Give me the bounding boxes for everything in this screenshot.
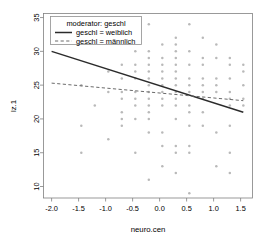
scatter-point [161, 57, 164, 60]
scatter-point [229, 124, 232, 127]
scatter-point [188, 145, 191, 148]
scatter-point [188, 104, 191, 107]
plot-canvas: -2.0-1.5-1.0-0.50.00.51.01.5 10152025303… [0, 0, 266, 246]
x-tick-label: 0.5 [181, 204, 191, 213]
moderation-scatter-figure: -2.0-1.5-1.0-0.50.00.51.01.5 10152025303… [0, 0, 266, 246]
x-tick-label: -1.0 [99, 204, 112, 213]
scatter-point [202, 37, 205, 40]
scatter-point [202, 64, 205, 67]
scatter-point [121, 111, 124, 114]
scatter-point [202, 124, 205, 127]
scatter-point [148, 64, 151, 67]
scatter-point [161, 77, 164, 80]
scatter-point [188, 111, 191, 114]
scatter-point [148, 179, 151, 182]
scatter-point [188, 64, 191, 67]
y-tick-label: 30 [32, 47, 41, 55]
x-tick-label: -2.0 [45, 204, 58, 213]
scatter-point [161, 145, 164, 148]
x-axis-title: neuro.cen [131, 225, 166, 234]
scatter-point [121, 91, 124, 94]
scatter-point [134, 151, 137, 154]
y-tick-label: 10 [32, 182, 41, 190]
scatter-point [175, 172, 178, 175]
scatter-point [80, 151, 83, 154]
y-tick-label: 15 [32, 149, 41, 157]
x-tick-label: -0.5 [126, 204, 139, 213]
scatter-point [148, 23, 151, 26]
x-tick-label: 1.0 [208, 204, 218, 213]
scatter-point [215, 57, 218, 60]
scatter-point [175, 151, 178, 154]
scatter-point [175, 57, 178, 60]
scatter-point [161, 64, 164, 67]
scatter-point [215, 77, 218, 80]
scatter-point [188, 50, 191, 53]
scatter-point [161, 70, 164, 73]
scatter-point [188, 151, 191, 154]
scatter-point [107, 138, 110, 141]
scatter-point [134, 118, 137, 121]
scatter-point [215, 43, 218, 46]
scatter-point [107, 70, 110, 73]
scatter-point [121, 97, 124, 100]
scatter-point [175, 77, 178, 80]
y-tick-label: 20 [32, 115, 41, 123]
scatter-point [188, 84, 191, 87]
scatter-point [188, 192, 191, 195]
scatter-point [188, 124, 191, 127]
scatter-point [148, 118, 151, 121]
scatter-point [121, 64, 124, 67]
scatter-point [94, 104, 97, 107]
y-tick-label: 35 [32, 13, 41, 21]
scatter-point [175, 118, 178, 121]
scatter-point [148, 77, 151, 80]
scatter-point [175, 70, 178, 73]
scatter-point [121, 124, 124, 127]
scatter-point [215, 91, 218, 94]
scatter-point [229, 91, 232, 94]
legend-label-maennlich: geschl = männlich [76, 37, 135, 46]
scatter-point [161, 97, 164, 100]
y-tick-label: 25 [32, 81, 41, 89]
scatter-point [175, 84, 178, 87]
scatter-point [148, 131, 151, 134]
scatter-point [229, 57, 232, 60]
scatter-point [107, 91, 110, 94]
scatter-point [148, 50, 151, 53]
scatter-point [215, 165, 218, 168]
scatter-point [134, 50, 137, 53]
scatter-point [148, 97, 151, 100]
scatter-point [148, 104, 151, 107]
scatter-point [215, 131, 218, 134]
scatter-point [242, 97, 245, 100]
scatter-point [148, 57, 151, 60]
scatter-point [202, 111, 205, 114]
scatter-point [121, 77, 124, 80]
scatter-point [175, 43, 178, 46]
scatter-point [161, 104, 164, 107]
scatter-point [148, 84, 151, 87]
scatter-point [242, 84, 245, 87]
scatter-point [188, 91, 191, 94]
scatter-point [242, 70, 245, 73]
scatter-point [175, 104, 178, 107]
scatter-point [175, 50, 178, 53]
scatter-point [134, 97, 137, 100]
scatter-point [229, 77, 232, 80]
scatter-point [229, 151, 232, 154]
scatter-point [188, 77, 191, 80]
scatter-point [175, 64, 178, 67]
scatter-point [134, 104, 137, 107]
scatter-point [202, 57, 205, 60]
scatter-point [134, 70, 137, 73]
x-tick-label: -1.5 [72, 204, 85, 213]
legend: moderator: geschl geschl = weiblich gesc… [51, 17, 142, 46]
scatter-point [175, 145, 178, 148]
scatter-point [80, 124, 83, 127]
scatter-point [202, 77, 205, 80]
scatter-point [202, 91, 205, 94]
scatter-point [215, 84, 218, 87]
scatter-point [161, 131, 164, 134]
y-axis-title: lz.1 [9, 100, 18, 112]
